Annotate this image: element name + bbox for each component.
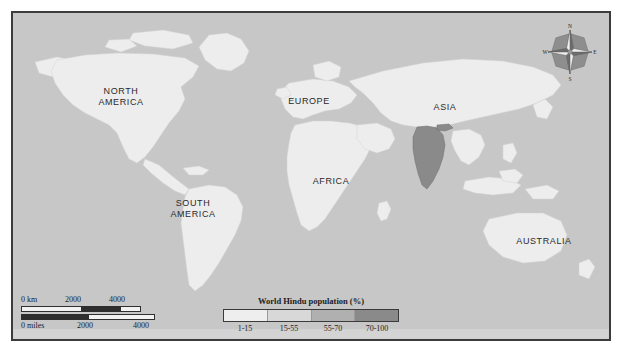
region-caribbean xyxy=(183,166,209,175)
legend-label-55-70: 55-70 xyxy=(311,324,355,333)
compass-label-west: W xyxy=(542,49,548,55)
legend-label-1-15: 1-15 xyxy=(223,324,267,333)
scale-miles-end-label: 4000 xyxy=(133,321,149,330)
scale-miles-zero-label: 0 miles xyxy=(21,321,44,330)
compass-label-south: S xyxy=(568,76,571,82)
scale-miles-labels: 0 miles 2000 4000 xyxy=(21,321,167,331)
legend-title: World Hindu population (%) xyxy=(223,296,399,306)
map-page: .land { fill:#ededed; stroke:#d2d2d2; st… xyxy=(0,0,631,358)
scale-bar-km-tick-end xyxy=(120,306,121,312)
legend-swatch-55-70 xyxy=(311,310,355,321)
compass-label-north: N xyxy=(568,23,572,29)
world-landmass: .land { fill:#ededed; stroke:#d2d2d2; st… xyxy=(13,13,609,339)
compass-rose: N E S W xyxy=(539,21,601,83)
scale-km-zero-label: 0 km xyxy=(21,295,37,304)
scale-bar-miles-segment xyxy=(22,315,88,319)
region-south-america xyxy=(181,185,243,291)
region-europe xyxy=(281,79,357,119)
region-greenland xyxy=(199,33,249,71)
scale-bar-km xyxy=(21,306,141,312)
region-madagascar xyxy=(377,201,391,221)
scale-km-end-label: 4000 xyxy=(109,295,125,304)
scale-bar-miles xyxy=(21,314,155,320)
legend-swatch-1-15 xyxy=(224,310,267,321)
region-philippines xyxy=(503,143,517,163)
scale-km-mid-label: 2000 xyxy=(65,295,81,304)
scale-bar-miles-tick-mid xyxy=(88,314,89,320)
region-southeast-asia xyxy=(451,129,485,165)
scale-km-labels: 0 km 2000 4000 xyxy=(21,295,167,305)
region-central-america xyxy=(143,159,189,195)
legend-label-15-55: 15-55 xyxy=(267,324,311,333)
region-scandinavia xyxy=(313,61,341,81)
scale-bar-block: 0 km 2000 4000 0 miles 2000 4000 xyxy=(21,295,167,333)
region-india xyxy=(413,126,445,189)
legend-swatch-row xyxy=(223,309,399,322)
scale-bar-km-segment xyxy=(81,307,120,311)
region-north-america xyxy=(51,53,199,163)
scale-bar-km-tick-mid xyxy=(81,306,82,312)
scale-miles-mid-label: 2000 xyxy=(77,321,93,330)
region-new-zealand xyxy=(579,259,595,279)
map-legend: World Hindu population (%) 1-15 15-55 55… xyxy=(223,296,399,333)
legend-swatch-15-55 xyxy=(267,310,311,321)
region-nepal xyxy=(437,124,453,131)
compass-label-east: E xyxy=(593,49,597,55)
map-frame: .land { fill:#ededed; stroke:#d2d2d2; st… xyxy=(11,11,611,341)
legend-label-row: 1-15 15-55 55-70 70-100 xyxy=(223,324,399,333)
legend-label-70-100: 70-100 xyxy=(355,324,399,333)
region-australia xyxy=(483,213,567,263)
region-new-guinea xyxy=(525,185,559,199)
legend-swatch-70-100 xyxy=(354,310,398,321)
region-arctic-islands xyxy=(129,30,193,49)
region-asia xyxy=(349,59,561,127)
